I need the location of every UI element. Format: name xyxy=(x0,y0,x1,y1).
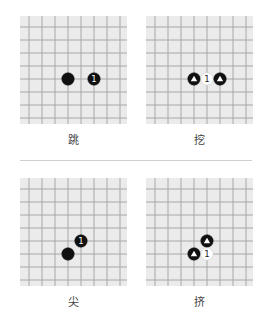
label-tiao: 跳 xyxy=(20,131,127,147)
label-wa: 挖 xyxy=(146,131,253,147)
board-jian-svg: 1 xyxy=(20,178,127,286)
board-tiao-svg: 1 xyxy=(20,16,127,124)
move-number: 1 xyxy=(91,74,96,84)
black-stone xyxy=(62,73,74,85)
board-jian: 1 xyxy=(20,178,127,286)
move-number: 1 xyxy=(204,249,209,259)
board-wa-svg: 1 xyxy=(146,16,253,124)
move-number: 1 xyxy=(204,74,209,84)
board-ji: 1 xyxy=(146,178,253,286)
board-tiao: 1 xyxy=(20,16,127,124)
label-jian: 尖 xyxy=(20,293,127,309)
label-ji: 挤 xyxy=(146,293,253,309)
board-wa: 1 xyxy=(146,16,253,124)
section-divider xyxy=(20,160,252,161)
black-stone xyxy=(62,248,74,260)
board-ji-svg: 1 xyxy=(146,178,253,286)
move-number: 1 xyxy=(78,236,83,246)
